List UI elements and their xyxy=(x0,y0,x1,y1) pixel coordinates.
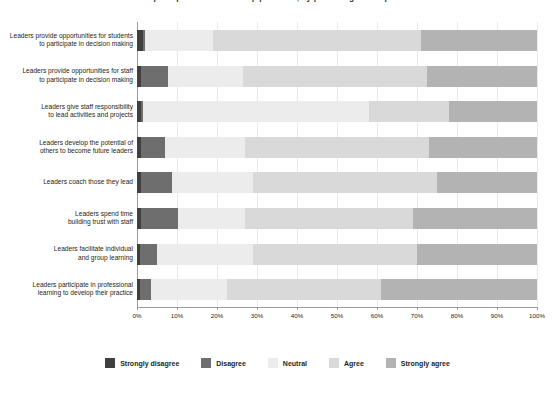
category-label-line: to lead activities and projects xyxy=(1,111,133,119)
y-axis-category-label: Leaders provide opportunities for studen… xyxy=(1,32,133,48)
chart-legend: Strongly disagreeDisagreeNeutralAgreeStr… xyxy=(0,358,555,368)
category-label-line: learning to develop their practice xyxy=(1,289,133,297)
bar-segment[interactable] xyxy=(213,30,421,51)
category-label-line: building trust with staff xyxy=(1,218,133,226)
legend-swatch-icon xyxy=(201,358,211,368)
category-label-line: Leaders provide opportunities for studen… xyxy=(1,32,133,40)
bar-segment[interactable] xyxy=(140,244,157,265)
bar-row[interactable] xyxy=(137,30,537,51)
chart-container: Staff perceptions of leadership practice… xyxy=(0,0,555,399)
category-label-line: to participate in decision making xyxy=(1,76,133,84)
x-axis-tick xyxy=(457,307,458,310)
legend-swatch-icon xyxy=(329,358,339,368)
x-axis-tick-label: 60% xyxy=(362,312,392,319)
bar-segment[interactable] xyxy=(151,279,227,300)
bar-segment[interactable] xyxy=(253,172,437,193)
category-label-line: Leaders give staff responsibility xyxy=(1,103,133,111)
bar-segment[interactable] xyxy=(449,101,537,122)
bar-segment[interactable] xyxy=(141,172,172,193)
y-axis-category-label: Leaders facilitate individualand group l… xyxy=(1,245,133,261)
bar-segment[interactable] xyxy=(381,279,537,300)
bar-segment[interactable] xyxy=(413,208,537,229)
category-label-line: Leaders coach those they lead xyxy=(1,178,133,186)
gridline xyxy=(537,22,538,307)
category-label-line: others to become future leaders xyxy=(1,147,133,155)
plot-area xyxy=(137,22,537,307)
bar-row[interactable] xyxy=(137,66,537,87)
bar-segment[interactable] xyxy=(437,172,537,193)
bar-row[interactable] xyxy=(137,172,537,193)
bar-segment[interactable] xyxy=(172,172,253,193)
bar-segment[interactable] xyxy=(141,66,168,87)
category-label-line: Leaders develop the potential of xyxy=(1,139,133,147)
x-axis-tick xyxy=(257,307,258,310)
x-axis-tick-label: 40% xyxy=(282,312,312,319)
category-label-line: Leaders provide opportunities for staff xyxy=(1,67,133,75)
bar-segment[interactable] xyxy=(178,208,245,229)
legend-item[interactable]: Neutral xyxy=(268,358,307,368)
x-axis-tick-label: 80% xyxy=(442,312,472,319)
bar-row[interactable] xyxy=(137,208,537,229)
legend-item[interactable]: Disagree xyxy=(201,358,246,368)
bar-segment[interactable] xyxy=(140,279,151,300)
y-axis-category-label: Leaders spend timebuilding trust with st… xyxy=(1,210,133,226)
bar-segment[interactable] xyxy=(245,208,413,229)
bar-row[interactable] xyxy=(137,101,537,122)
legend-label: Neutral xyxy=(283,360,307,367)
x-axis-tick xyxy=(337,307,338,310)
legend-item[interactable]: Strongly disagree xyxy=(105,358,179,368)
category-label-line: Leaders spend time xyxy=(1,210,133,218)
x-axis-tick-label: 0% xyxy=(122,312,152,319)
x-axis-tick xyxy=(177,307,178,310)
legend-label: Disagree xyxy=(216,360,246,367)
bar-segment[interactable] xyxy=(141,208,178,229)
legend-swatch-icon xyxy=(386,358,396,368)
bar-segment[interactable] xyxy=(168,66,243,87)
x-axis-tick-label: 30% xyxy=(242,312,272,319)
x-axis-tick-label: 100% xyxy=(522,312,552,319)
bar-row[interactable] xyxy=(137,279,537,300)
category-label-line: Leaders facilitate individual xyxy=(1,245,133,253)
x-axis-tick xyxy=(417,307,418,310)
legend-swatch-icon xyxy=(105,358,115,368)
bar-segment[interactable] xyxy=(253,244,417,265)
legend-item[interactable]: Agree xyxy=(329,358,364,368)
x-axis-tick-label: 70% xyxy=(402,312,432,319)
chart-title: Staff perceptions of leadership practice… xyxy=(0,0,555,4)
bar-row[interactable] xyxy=(137,244,537,265)
bar-segment[interactable] xyxy=(143,101,369,122)
legend-label: Agree xyxy=(344,360,364,367)
y-axis-category-label: Leaders develop the potential ofothers t… xyxy=(1,139,133,155)
x-axis-tick xyxy=(497,307,498,310)
x-axis-tick xyxy=(377,307,378,310)
legend-label: Strongly disagree xyxy=(120,360,179,367)
x-axis-tick-label: 10% xyxy=(162,312,192,319)
bar-segment[interactable] xyxy=(157,244,253,265)
bar-segment[interactable] xyxy=(227,279,381,300)
legend-swatch-icon xyxy=(268,358,278,368)
bar-segment[interactable] xyxy=(417,244,537,265)
bar-segment[interactable] xyxy=(145,30,213,51)
bar-segment[interactable] xyxy=(421,30,537,51)
x-axis-tick xyxy=(217,307,218,310)
bar-segment[interactable] xyxy=(369,101,449,122)
category-label-line: to participate in decision making xyxy=(1,40,133,48)
x-axis-tick xyxy=(137,307,138,310)
bar-segment[interactable] xyxy=(141,137,165,158)
y-axis-category-label: Leaders coach those they lead xyxy=(1,178,133,186)
legend-label: Strongly agree xyxy=(401,360,450,367)
bar-row[interactable] xyxy=(137,137,537,158)
x-axis-tick-label: 20% xyxy=(202,312,232,319)
legend-item[interactable]: Strongly agree xyxy=(386,358,450,368)
y-axis-category-label: Leaders provide opportunities for stafft… xyxy=(1,67,133,83)
x-axis-tick-label: 90% xyxy=(482,312,512,319)
bar-segment[interactable] xyxy=(429,137,537,158)
bar-segment[interactable] xyxy=(245,137,429,158)
bar-segment[interactable] xyxy=(427,66,537,87)
y-axis-category-label: Leaders participate in professionallearn… xyxy=(1,281,133,297)
bar-segment[interactable] xyxy=(243,66,427,87)
bar-segment[interactable] xyxy=(165,137,245,158)
x-axis-tick xyxy=(537,307,538,310)
y-axis-category-label: Leaders give staff responsibilityto lead… xyxy=(1,103,133,119)
category-label-line: Leaders participate in professional xyxy=(1,281,133,289)
